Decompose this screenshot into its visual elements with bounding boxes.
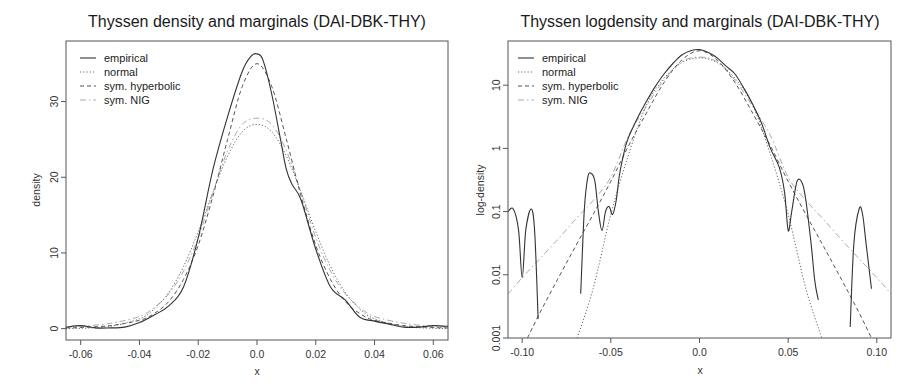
x-tick-label: -0.06 xyxy=(69,348,93,360)
y-tick-label: 30 xyxy=(48,96,60,108)
legend: empiricalnormalsym. hyperbolicsym. NIG xyxy=(80,52,181,106)
series-line-sym-nig xyxy=(66,118,448,327)
y-tick-label: 0.01 xyxy=(490,264,502,285)
legend-label-sym-nig: sym. NIG xyxy=(542,94,588,106)
legend-label-sym-nig: sym. NIG xyxy=(104,94,150,106)
series-line-normal xyxy=(66,124,448,328)
x-ticks: -0.10-0.050.00.050.10 xyxy=(510,338,887,358)
x-tick-label: -0.05 xyxy=(599,346,623,358)
x-tick-label: 0.04 xyxy=(364,348,385,360)
legend-label-sym-hyperbolic: sym. hyperbolic xyxy=(104,80,181,92)
series-line-sym-nig xyxy=(508,57,891,294)
y-ticks: 0.0010.010.1110 xyxy=(490,79,508,351)
y-tick-label: 0 xyxy=(48,326,60,332)
y-tick-label: 20 xyxy=(48,171,60,183)
density-panel: Thyssen density and marginals (DAI-DBK-T… xyxy=(30,13,448,377)
y-tick-label: 10 xyxy=(490,79,502,91)
y-axis-label: density xyxy=(30,173,42,207)
x-ticks: -0.06-0.04-0.020.00.020.040.06 xyxy=(69,340,444,360)
figure: Thyssen density and marginals (DAI-DBK-T… xyxy=(0,0,920,387)
y-tick-label: 10 xyxy=(48,247,60,259)
legend-label-normal: normal xyxy=(104,66,138,78)
x-tick-label: -0.02 xyxy=(186,348,210,360)
x-tick-label: -0.10 xyxy=(510,346,534,358)
y-tick-label: 0.001 xyxy=(490,325,502,351)
y-axis-label: log-density xyxy=(474,164,486,216)
x-tick-label: 0.06 xyxy=(423,348,444,360)
logdensity-panel: Thyssen logdensity and marginals (DAI-DB… xyxy=(474,13,891,376)
legend-label-sym-hyperbolic: sym. hyperbolic xyxy=(542,80,619,92)
chart-title: Thyssen density and marginals (DAI-DBK-T… xyxy=(88,13,426,30)
x-tick-label: -0.04 xyxy=(127,348,151,360)
legend: empiricalnormalsym. hyperbolicsym. NIG xyxy=(518,52,619,106)
y-ticks: 0102030 xyxy=(48,96,66,332)
y-tick-label: 1 xyxy=(490,145,502,151)
series-line-empirical xyxy=(850,207,871,327)
x-tick-label: 0.10 xyxy=(867,346,888,358)
x-axis-label: x xyxy=(697,364,703,376)
legend-label-empirical: empirical xyxy=(104,52,148,64)
legend-label-normal: normal xyxy=(542,66,576,78)
x-tick-label: 0.02 xyxy=(306,348,327,360)
plot-area xyxy=(508,50,891,338)
chart-title: Thyssen logdensity and marginals (DAI-DB… xyxy=(520,13,879,30)
legend-label-empirical: empirical xyxy=(542,52,586,64)
x-tick-label: 0.0 xyxy=(692,346,707,358)
x-tick-label: 0.05 xyxy=(778,346,799,358)
x-axis-label: x xyxy=(254,365,260,377)
series-line-empirical xyxy=(508,208,538,319)
y-tick-label: 0.1 xyxy=(490,204,502,219)
x-tick-label: 0.0 xyxy=(250,348,265,360)
